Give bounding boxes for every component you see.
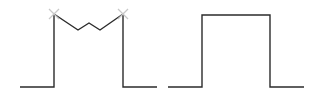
notched-pulse-outline [20, 14, 157, 87]
rectangular-pulse-outline [168, 15, 304, 87]
notched-pulse-shape [20, 9, 157, 87]
vertex-markers [49, 9, 128, 19]
diagram-canvas [0, 0, 313, 94]
rectangular-pulse-shape [168, 15, 304, 87]
